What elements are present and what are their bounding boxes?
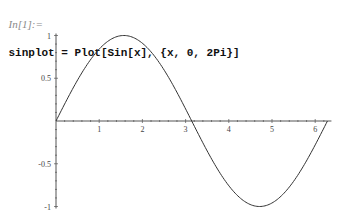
y-tick-label: 1 bbox=[47, 32, 51, 41]
y-tick-label: -1 bbox=[44, 203, 51, 212]
y-tick-label: 0.5 bbox=[41, 74, 51, 83]
x-tick-label: 5 bbox=[270, 125, 274, 134]
x-tick-label: 2 bbox=[140, 125, 144, 134]
x-tick-label: 4 bbox=[227, 125, 231, 134]
x-tick-label: 1 bbox=[97, 125, 101, 134]
sine-plot: 123456-1-0.50.51 bbox=[0, 0, 348, 213]
plot-axes bbox=[56, 34, 331, 209]
x-tick-label: 6 bbox=[313, 125, 317, 134]
x-tick-label: 3 bbox=[184, 125, 188, 134]
y-tick-label: -0.5 bbox=[38, 160, 51, 169]
